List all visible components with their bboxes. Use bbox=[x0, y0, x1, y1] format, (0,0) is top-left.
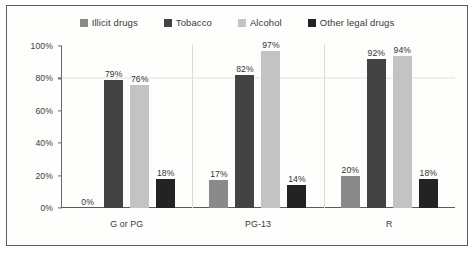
x-axis-category-label: PG-13 bbox=[192, 219, 323, 229]
bar-rect[interactable] bbox=[419, 179, 438, 208]
bar-value-label: 82% bbox=[236, 64, 254, 74]
bar-group: 20%92%94%18%R bbox=[324, 46, 455, 208]
legend-entry[interactable]: Alcohol bbox=[238, 17, 282, 28]
bar-value-label: 18% bbox=[157, 168, 175, 178]
bar-slot[interactable]: 82% bbox=[235, 46, 254, 208]
x-axis-category-label: R bbox=[324, 219, 455, 229]
bar-rect[interactable] bbox=[235, 75, 254, 208]
bar-slot[interactable]: 18% bbox=[419, 46, 438, 208]
legend-label: Illicit drugs bbox=[92, 17, 138, 28]
bar-rect[interactable] bbox=[261, 51, 280, 208]
figure-frame: Illicit drugsTobaccoAlcoholOther legal d… bbox=[6, 5, 468, 246]
bar-slot[interactable]: 14% bbox=[287, 46, 306, 208]
bar-slot[interactable]: 79% bbox=[104, 46, 123, 208]
bar-rect[interactable] bbox=[367, 59, 386, 208]
bar-rect[interactable] bbox=[130, 85, 149, 208]
bar-slot[interactable]: 92% bbox=[367, 46, 386, 208]
x-axis-category-label: G or PG bbox=[61, 219, 192, 229]
bar-slot[interactable]: 18% bbox=[156, 46, 175, 208]
legend-label: Tobacco bbox=[176, 17, 212, 28]
bar-rect[interactable] bbox=[104, 80, 123, 208]
bar-value-label: 94% bbox=[394, 45, 412, 55]
bar-value-label: 92% bbox=[368, 48, 386, 58]
legend-swatch-icon bbox=[238, 19, 246, 27]
y-axis-tick-label: 20% bbox=[9, 171, 53, 181]
bar-rect[interactable] bbox=[156, 179, 175, 208]
legend-label: Other legal drugs bbox=[320, 17, 395, 28]
chart-legend: Illicit drugsTobaccoAlcoholOther legal d… bbox=[7, 17, 467, 28]
bar-value-label: 17% bbox=[210, 169, 228, 179]
bar-value-label: 97% bbox=[262, 40, 280, 50]
bar-slot[interactable]: 94% bbox=[393, 46, 412, 208]
bar-group: 0%79%76%18%G or PG bbox=[61, 46, 192, 208]
plot-area: 0%20%40%60%80%100% 0%79%76%18%G or PG17%… bbox=[61, 46, 455, 208]
y-axis-tick-label: 80% bbox=[9, 73, 53, 83]
bar-value-label: 76% bbox=[131, 74, 149, 84]
bar-value-label: 79% bbox=[105, 69, 123, 79]
bar-value-label: 20% bbox=[342, 165, 360, 175]
bar-slot[interactable]: 76% bbox=[130, 46, 149, 208]
bar-value-label: 14% bbox=[288, 174, 306, 184]
legend-swatch-icon bbox=[164, 19, 172, 27]
bar-rect[interactable] bbox=[287, 185, 306, 208]
y-axis-tick-label: 0% bbox=[9, 203, 53, 213]
y-axis-tick-label: 40% bbox=[9, 138, 53, 148]
y-axis-tick-label: 60% bbox=[9, 106, 53, 116]
bar-slot[interactable]: 20% bbox=[341, 46, 360, 208]
bar-rect[interactable] bbox=[341, 176, 360, 208]
legend-label: Alcohol bbox=[250, 17, 282, 28]
bar-value-label: 18% bbox=[420, 168, 438, 178]
legend-swatch-icon bbox=[308, 19, 316, 27]
bar-value-label: 0% bbox=[81, 197, 94, 207]
y-axis-tick-label: 100% bbox=[9, 41, 53, 51]
bar-slot[interactable]: 17% bbox=[209, 46, 228, 208]
legend-entry[interactable]: Tobacco bbox=[164, 17, 212, 28]
bar-rect[interactable] bbox=[209, 180, 228, 208]
bar-group: 17%82%97%14%PG-13 bbox=[192, 46, 323, 208]
bar-slot[interactable]: 97% bbox=[261, 46, 280, 208]
bar-slot[interactable]: 0% bbox=[78, 46, 97, 208]
bar-rect[interactable] bbox=[393, 56, 412, 208]
legend-swatch-icon bbox=[80, 19, 88, 27]
legend-entry[interactable]: Illicit drugs bbox=[80, 17, 138, 28]
legend-entry[interactable]: Other legal drugs bbox=[308, 17, 395, 28]
